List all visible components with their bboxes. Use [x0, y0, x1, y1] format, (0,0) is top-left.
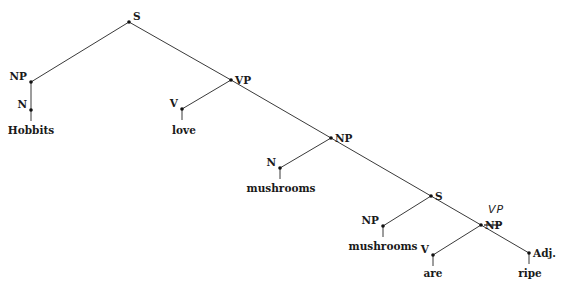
node-dot: [431, 253, 435, 257]
leaf-word: are: [423, 267, 442, 279]
node-dot: [381, 224, 385, 228]
tree-edges: [31, 22, 529, 255]
tree-edge: [433, 225, 481, 255]
leaf-words: Hobbitslovemushroomsmushroomsareripe: [8, 124, 542, 279]
leaf-word: ripe: [518, 267, 542, 279]
tree-nodes: [29, 20, 531, 257]
node-dot: [29, 80, 33, 84]
tree-edge: [331, 138, 431, 196]
handwritten-annotation: VP: [488, 203, 504, 216]
node-labels: SNPNVPVNPNSNPNPVAdj.: [10, 10, 556, 259]
node-label-s2: S: [435, 190, 443, 202]
node-dot: [229, 78, 233, 82]
leaf-word: mushrooms: [349, 240, 418, 252]
node-label-np2: NP: [335, 132, 353, 144]
tree-edge: [129, 22, 231, 80]
node-label-adj1: Adj.: [532, 247, 556, 259]
leaf-word: Hobbits: [8, 124, 54, 136]
leaf-word: love: [172, 124, 196, 136]
node-label-np1: NP: [10, 70, 28, 82]
parse-tree-diagram: SNPNVPVNPNSNPNPVAdj. Hobbitslovemushroom…: [0, 0, 564, 288]
node-label-vp1: VP: [234, 74, 251, 86]
node-dot: [429, 194, 433, 198]
node-dot: [479, 223, 483, 227]
tree-edge: [231, 80, 331, 138]
tree-edge: [383, 196, 431, 226]
tree-edge: [182, 80, 231, 109]
node-label-s1: S: [133, 10, 141, 22]
node-dot: [329, 136, 333, 140]
node-label-n2: N: [266, 156, 276, 168]
node-dot: [180, 107, 184, 111]
leaf-word: mushrooms: [247, 182, 316, 194]
node-label-np3: NP: [362, 214, 380, 226]
tree-edge: [280, 138, 331, 168]
node-dot: [127, 20, 131, 24]
node-dot: [278, 166, 282, 170]
tree-edge: [31, 22, 129, 82]
node-label-v2: V: [420, 243, 430, 255]
node-dot: [29, 108, 33, 112]
node-dot: [527, 251, 531, 255]
correction-label: VP: [488, 203, 504, 216]
node-label-v1: V: [169, 97, 179, 109]
node-label-n1: N: [17, 98, 27, 110]
